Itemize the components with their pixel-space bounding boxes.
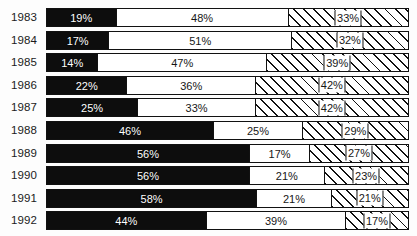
segment-value-label: 51% [109, 32, 291, 49]
segment-value-label: 42% [318, 100, 345, 115]
segment-light: 21% [256, 190, 332, 207]
segment-value-label: 29% [342, 123, 369, 138]
chart-row: 198319%48%33% [0, 8, 417, 27]
segment-value-label: 17% [363, 213, 390, 228]
segment-hatched: 21% [332, 190, 408, 207]
segment-value-label: 44% [47, 212, 206, 229]
segment-value-label: 14% [47, 54, 97, 71]
stacked-bar: 58%21%21% [46, 189, 409, 208]
segment-value-label: 17% [250, 145, 309, 162]
segment-value-label: 33% [138, 99, 255, 116]
segment-light: 39% [206, 212, 347, 229]
chart-row: 199056%21%23% [0, 166, 417, 185]
segment-dark: 25% [47, 99, 137, 116]
segment-hatched: 17% [346, 212, 407, 229]
segment-light: 47% [97, 54, 266, 71]
row-year-label: 1991 [11, 189, 43, 208]
segment-value-label: 56% [47, 167, 249, 184]
segment-hatched: 29% [303, 122, 408, 139]
row-year-label: 1990 [11, 166, 43, 185]
segment-value-label: 39% [324, 55, 351, 70]
stacked-bar: 46%25%29% [46, 121, 409, 140]
segment-value-label: 58% [47, 190, 256, 207]
segment-hatched: 42% [256, 99, 407, 116]
stacked-bar: 14%47%39% [46, 53, 409, 72]
segment-hatched: 33% [289, 9, 408, 26]
chart-row: 198417%51%32% [0, 31, 417, 50]
row-year-label: 1989 [11, 144, 43, 163]
segment-value-label: 22% [47, 77, 126, 94]
chart-plot-area: 198319%48%33%198417%51%32%198514%47%39%1… [0, 0, 417, 236]
chart-row: 199244%39%17% [0, 211, 417, 230]
segment-dark: 14% [47, 54, 97, 71]
stacked-bar: 56%21%23% [46, 166, 409, 185]
segment-light: 33% [137, 99, 256, 116]
segment-value-label: 48% [117, 9, 288, 26]
segment-value-label: 21% [257, 190, 331, 207]
stacked-bar: 19%48%33% [46, 8, 409, 27]
segment-dark: 17% [47, 32, 108, 49]
stacked-bar: 56%17%27% [46, 144, 409, 163]
chart-row: 198622%36%42% [0, 76, 417, 95]
segment-value-label: 36% [127, 77, 255, 94]
segment-hatched: 23% [325, 167, 408, 184]
chart-row: 199158%21%21% [0, 189, 417, 208]
segment-value-label: 46% [47, 122, 213, 139]
segment-dark: 19% [47, 9, 116, 26]
segment-hatched: 39% [267, 54, 408, 71]
segment-light: 48% [116, 9, 289, 26]
segment-light: 17% [249, 145, 310, 162]
row-year-label: 1983 [11, 8, 43, 27]
segment-value-label: 21% [356, 191, 383, 206]
row-year-label: 1988 [11, 121, 43, 140]
segment-value-label: 19% [47, 9, 116, 26]
segment-hatched: 32% [292, 32, 407, 49]
segment-value-label: 47% [98, 54, 265, 71]
segment-value-label: 25% [47, 99, 137, 116]
segment-hatched: 42% [256, 77, 407, 94]
segment-value-label: 25% [214, 122, 302, 139]
segment-light: 36% [126, 77, 256, 94]
segment-dark: 44% [47, 212, 206, 229]
row-year-label: 1985 [11, 53, 43, 72]
row-year-label: 1992 [11, 211, 43, 230]
chart-row: 198846%25%29% [0, 121, 417, 140]
segment-value-label: 23% [353, 168, 380, 183]
segment-dark: 46% [47, 122, 213, 139]
segment-value-label: 27% [345, 146, 372, 161]
segment-value-label: 39% [207, 212, 346, 229]
stacked-bar: 44%39%17% [46, 211, 409, 230]
chart-row: 198956%17%27% [0, 144, 417, 163]
chart-row: 198725%33%42% [0, 98, 417, 117]
stacked-bar: 17%51%32% [46, 31, 409, 50]
segment-light: 51% [108, 32, 292, 49]
chart-row: 198514%47%39% [0, 53, 417, 72]
stacked-bar: 25%33%42% [46, 98, 409, 117]
segment-value-label: 33% [335, 10, 362, 25]
stacked-bar-chart: 198319%48%33%198417%51%32%198514%47%39%1… [0, 0, 417, 236]
segment-value-label: 21% [250, 167, 324, 184]
segment-dark: 56% [47, 145, 249, 162]
segment-dark: 22% [47, 77, 126, 94]
segment-value-label: 56% [47, 145, 249, 162]
stacked-bar: 22%36%42% [46, 76, 409, 95]
segment-hatched: 27% [310, 145, 407, 162]
row-year-label: 1987 [11, 98, 43, 117]
row-year-label: 1984 [11, 31, 43, 50]
segment-value-label: 32% [336, 33, 363, 48]
segment-value-label: 42% [318, 78, 345, 93]
row-year-label: 1986 [11, 76, 43, 95]
segment-dark: 56% [47, 167, 249, 184]
segment-light: 25% [213, 122, 303, 139]
segment-light: 21% [249, 167, 325, 184]
segment-value-label: 17% [47, 32, 108, 49]
segment-dark: 58% [47, 190, 256, 207]
